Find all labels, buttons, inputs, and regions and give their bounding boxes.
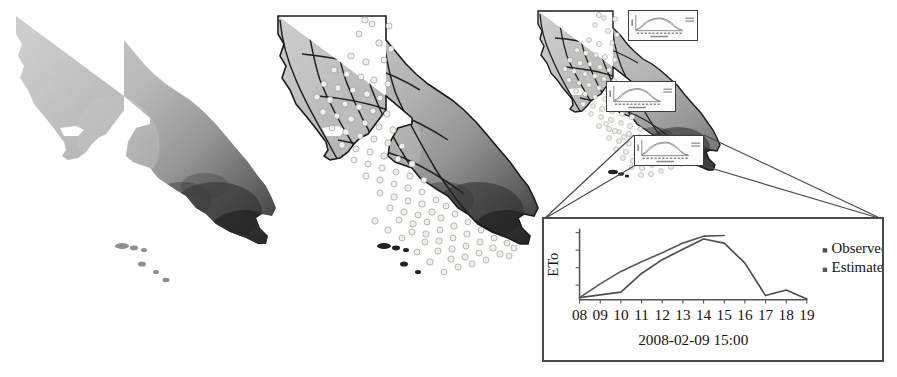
figure-root: 080910111213141516171819 ETo 2008-02-09 …	[0, 0, 897, 377]
statewide-eto-surface-map	[0, 0, 300, 330]
x-tick-09: 09	[593, 306, 608, 323]
x-tick-11: 11	[634, 306, 649, 323]
chart-legend: ObservedEstimated	[823, 240, 882, 275]
map-b-svg	[262, 0, 562, 330]
popup-north-svg	[629, 11, 697, 40]
station-popup-north[interactable]	[628, 10, 698, 41]
series-observed	[580, 239, 807, 299]
x-tick-18: 18	[779, 306, 795, 323]
x-axis-label: 2008-02-09 15:00	[638, 332, 749, 349]
popup-central-svg	[607, 82, 675, 111]
x-tick-19: 19	[799, 306, 814, 323]
x-tick-16: 16	[737, 306, 753, 323]
x-tick-10: 10	[613, 306, 629, 323]
x-axis-tick-labels: 080910111213141516171819	[572, 306, 815, 323]
x-tick-17: 17	[758, 306, 774, 323]
x-tick-14: 14	[696, 306, 712, 323]
y-axis-label: ETo	[545, 253, 561, 277]
legend-marker-observed	[823, 248, 827, 252]
x-tick-13: 13	[675, 306, 690, 323]
legend-label-observed: Observed	[832, 240, 882, 256]
x-tick-12: 12	[655, 306, 670, 323]
legend-marker-estimated	[823, 268, 827, 272]
x-tick-15: 15	[717, 306, 732, 323]
station-popup-central[interactable]	[606, 81, 676, 112]
chart-series	[580, 236, 807, 300]
eto-detail-chart[interactable]: 080910111213141516171819 ETo 2008-02-09 …	[542, 217, 884, 362]
eto-zones-with-stations-map	[262, 0, 562, 330]
legend-label-estimated: Estimated	[832, 260, 882, 276]
station-popup-south[interactable]	[634, 135, 704, 166]
popup-south-svg	[635, 136, 703, 165]
eto-detail-chart-svg: 080910111213141516171819 ETo 2008-02-09 …	[544, 219, 882, 360]
map-a-svg	[0, 0, 300, 330]
x-tick-08: 08	[572, 306, 588, 323]
